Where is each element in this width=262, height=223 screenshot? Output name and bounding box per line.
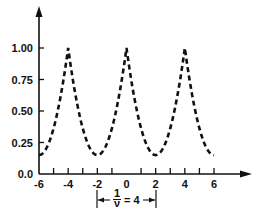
x-tick-label: 4: [182, 178, 189, 190]
x-tick-label: 2: [153, 178, 159, 190]
x-ticks: -6-4-20246: [34, 168, 217, 190]
arrow-left-icon: [98, 198, 104, 203]
period-annotation: 1 ν = 4: [97, 187, 156, 209]
y-tick-label: 0.0: [18, 168, 33, 180]
x-tick-label: -2: [92, 178, 102, 190]
y-tick-label: 0.75: [12, 74, 33, 86]
chart-canvas: 0.00.250.500.751.00 -6-4-20246 1 ν = 4: [0, 0, 262, 223]
y-tick-label: 1.00: [12, 42, 33, 54]
y-axis-arrow-icon: [36, 6, 43, 17]
x-tick-label: -6: [34, 178, 44, 190]
x-axis-arrow-icon: [240, 171, 252, 178]
x-tick-label: -4: [63, 178, 74, 190]
arrow-right-icon: [149, 198, 155, 203]
x-tick-label: 6: [211, 178, 217, 190]
y-tick-label: 0.25: [12, 137, 33, 149]
x-tick-label: 0: [123, 178, 129, 190]
fraction-equals: = 4: [124, 194, 140, 206]
fraction-denominator: ν: [114, 197, 120, 209]
dashed-curve: [39, 48, 214, 155]
y-tick-label: 0.50: [12, 105, 33, 117]
